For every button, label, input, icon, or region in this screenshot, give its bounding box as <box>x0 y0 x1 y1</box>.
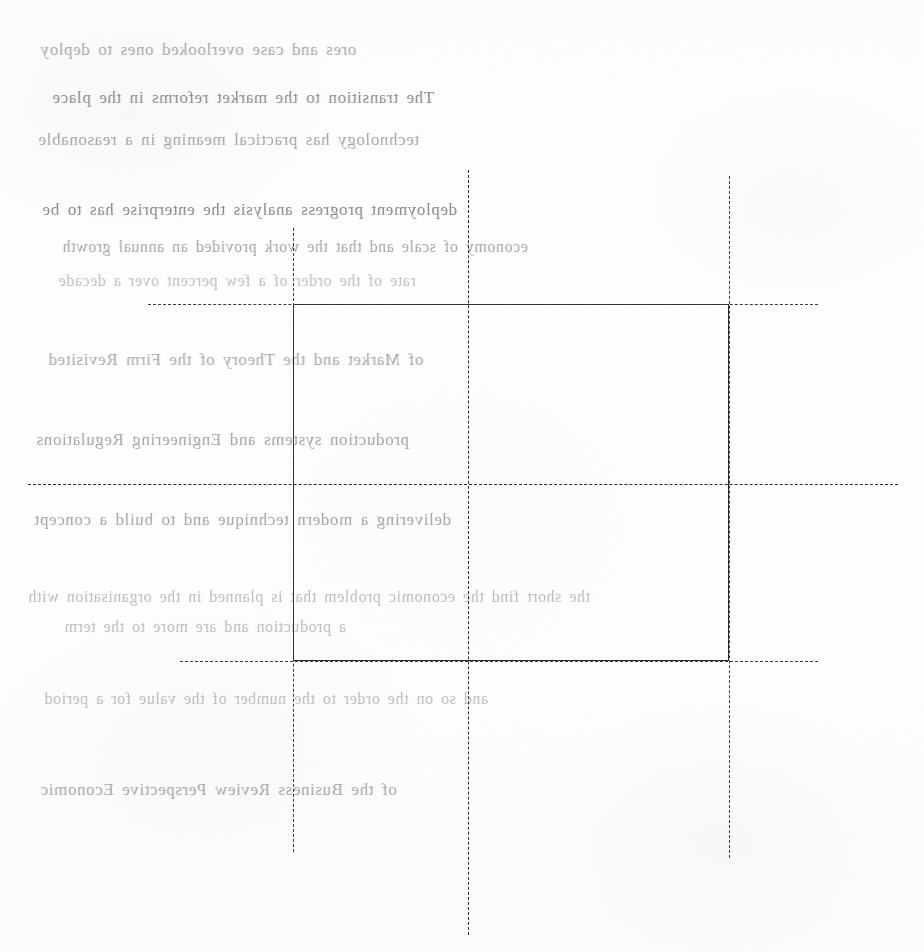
bottom-edge-guide <box>180 661 818 662</box>
ghost-text-line: of the Business Review Perspective Econo… <box>40 780 397 800</box>
ghost-text-line: production systems and Engineering Regul… <box>36 430 409 450</box>
center-horizontal-guide <box>28 484 898 485</box>
ghost-text-line: The transition to the market reforms in … <box>52 88 435 108</box>
left-edge-guide <box>293 228 294 852</box>
ghost-text-line: delivering a modern technique and to bui… <box>34 510 452 530</box>
ghost-text-line: a production and are more to the term <box>64 618 347 636</box>
ghost-text-line: ores and case overlooked ones to deploy <box>40 40 357 60</box>
scanned-page-canvas: ores and case overlooked ones to deployT… <box>0 0 924 952</box>
ghost-text-line: rate of the order of a few percent over … <box>58 272 416 290</box>
ghost-text-line: and so on the order to the number of the… <box>44 690 489 708</box>
center-vertical-guide <box>468 170 469 935</box>
right-edge-guide <box>729 176 730 858</box>
paper-texture <box>0 0 924 952</box>
scan-speckle-overlay <box>0 0 924 952</box>
ghost-text-line: economy of scale and that the work provi… <box>62 238 528 256</box>
top-edge-guide <box>148 304 818 305</box>
ghost-text-line: deployment progress analysis the enterpr… <box>42 200 458 220</box>
ghost-text-line: technology has practical meaning in a re… <box>38 130 420 150</box>
registration-marks-layer <box>0 0 924 952</box>
ghost-text-line: of Market and the Theory of the Firm Rev… <box>48 350 424 370</box>
ghost-text-line: the short find the economic problem that… <box>28 588 591 606</box>
bleed-through-text-layer: ores and case overlooked ones to deployT… <box>0 0 924 952</box>
trim-box-rectangle <box>293 304 729 661</box>
